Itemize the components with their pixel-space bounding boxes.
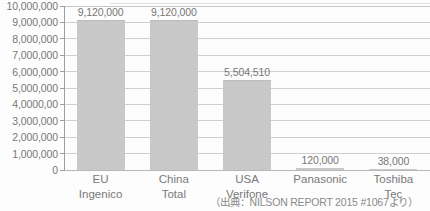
y-axis-tick-labels: 10,000,0009,000,0008,000,0007,000,0006,0… [0, 6, 62, 170]
category-label-line1: EU [93, 173, 109, 185]
source-note: （出典：NILSON REPORT 2015 #1067より） [210, 194, 418, 209]
bar[interactable] [369, 169, 417, 170]
category-label-line1: Panasonic [293, 173, 347, 185]
y-axis-tick-label: 5,000,000 [12, 82, 58, 94]
bar[interactable] [296, 168, 344, 170]
bar-slot [223, 6, 271, 170]
y-axis-tick-label: 9,000,000 [12, 16, 58, 28]
category-label-line1: China [159, 173, 189, 185]
y-axis-tick-label: 1,000,000 [12, 148, 58, 160]
top-cut-rule [110, 3, 430, 4]
category-label-line1: Toshiba [374, 173, 414, 185]
bar-slot [296, 6, 344, 170]
y-axis-tick-label: 2,000,000 [12, 131, 58, 143]
bar[interactable] [150, 20, 198, 170]
bars-layer [64, 6, 430, 170]
scanned-chart-page: 10,000,0009,000,0008,000,0007,000,0006,0… [0, 0, 430, 211]
y-axis-tick-label: 6,000,000 [12, 66, 58, 78]
bar-value-label: 38,000 [348, 155, 430, 167]
bar-slot [150, 6, 198, 170]
plot-area: 9,120,0009,120,0005,504,510120,00038,000 [64, 6, 430, 170]
bar-chart: 10,000,0009,000,0008,000,0007,000,0006,0… [0, 6, 430, 186]
bar[interactable] [77, 20, 125, 170]
y-axis-tick-label: 4,0000,00 [12, 98, 58, 110]
bar-value-label: 9,120,000 [129, 6, 219, 18]
y-axis-tick-label: 3,000,000 [12, 115, 58, 127]
bar[interactable] [223, 80, 271, 170]
category-label-line1: USA [235, 173, 259, 185]
y-axis-tick-label: 7,000,000 [12, 49, 58, 61]
bar-slot [77, 6, 125, 170]
y-axis-tick-label: 8,000,000 [12, 33, 58, 45]
y-axis-tick-label: 10,000,000 [6, 0, 58, 12]
bar-slot [369, 6, 417, 170]
bar-value-label: 5,504,510 [202, 66, 292, 78]
